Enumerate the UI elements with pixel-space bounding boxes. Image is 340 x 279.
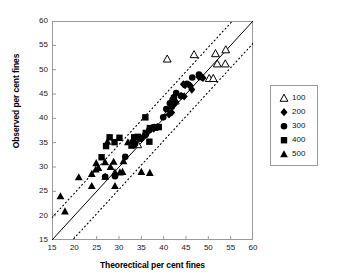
data-point-500 [75, 173, 83, 180]
plot-canvas [52, 21, 253, 240]
x-tick-label: 15 [41, 244, 63, 252]
x-tick-label: 25 [86, 244, 108, 252]
x-tick-label: 35 [130, 244, 152, 252]
x-tick-label: 40 [153, 244, 175, 252]
data-point-500 [110, 158, 118, 165]
filled-triangle-icon [278, 148, 290, 160]
data-point-400 [142, 114, 148, 120]
y-tick-label: 15 [26, 236, 48, 244]
legend-item-label: 200 [292, 108, 305, 116]
lower-band-line [73, 43, 253, 240]
legend-item-400: 400 [271, 133, 317, 147]
chart-legend: 100200300400500 [270, 85, 318, 166]
x-tick-label: 50 [197, 244, 219, 252]
y-tick-label: 40 [26, 114, 48, 122]
data-point-500 [61, 207, 69, 214]
x-tick-label: 20 [63, 244, 85, 252]
data-point-500 [146, 169, 154, 176]
data-point-100 [222, 46, 230, 53]
data-points [57, 46, 230, 215]
legend-item-200: 200 [271, 105, 317, 119]
data-point-400 [146, 138, 152, 144]
y-tick-label: 60 [26, 17, 48, 25]
y-axis-title: Observed per cent fines [11, 41, 21, 161]
x-tick-label: 30 [108, 244, 130, 252]
data-point-100 [163, 55, 171, 62]
filled-diamond-icon [278, 106, 290, 118]
data-point-300 [189, 74, 196, 81]
y-axis-tick-labels: 15202530354045505560 [24, 0, 48, 279]
data-point-300 [184, 80, 191, 87]
data-point-500 [57, 192, 65, 199]
y-tick-label: 50 [26, 66, 48, 74]
legend-item-100: 100 [271, 91, 317, 105]
y-tick-label: 30 [26, 163, 48, 171]
y-tick-label: 20 [26, 212, 48, 220]
legend-item-label: 500 [292, 150, 305, 158]
legend-item-500: 500 [271, 147, 317, 161]
plot-area [52, 21, 253, 240]
data-point-100 [221, 60, 229, 67]
y-tick-label: 25 [26, 187, 48, 195]
y-tick-label: 45 [26, 90, 48, 98]
data-point-500 [111, 182, 119, 189]
data-point-300 [163, 106, 170, 113]
x-axis-tick-labels: 15202530354045505560 [0, 244, 340, 256]
filled-square-icon [278, 134, 290, 146]
legend-item-label: 400 [292, 136, 305, 144]
legend-item-label: 300 [292, 122, 305, 130]
data-point-300 [160, 114, 167, 121]
x-tick-label: 60 [242, 244, 264, 252]
data-point-100 [212, 50, 220, 57]
chart-root: Observed per cent fines 1520253035404550… [0, 0, 340, 279]
y-tick-label: 55 [26, 41, 48, 49]
open-triangle-icon [278, 92, 290, 104]
filled-circle-icon [278, 120, 290, 132]
data-point-500 [137, 168, 145, 175]
data-point-400 [143, 130, 149, 136]
x-tick-label: 55 [220, 244, 242, 252]
data-point-100 [190, 51, 198, 58]
data-point-400 [98, 154, 104, 160]
x-tick-label: 45 [175, 244, 197, 252]
data-point-300 [196, 71, 203, 78]
x-axis-title: Theorectical per cent fines [52, 260, 253, 270]
y-tick-label: 35 [26, 139, 48, 147]
legend-item-300: 300 [271, 119, 317, 133]
legend-item-label: 100 [292, 94, 305, 102]
data-point-500 [88, 182, 96, 189]
